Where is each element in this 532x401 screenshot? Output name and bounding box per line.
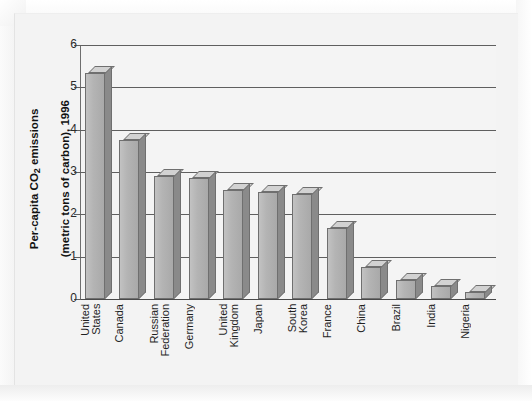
- y-tick-label: 4: [51, 122, 77, 136]
- y-tick-label: 2: [51, 206, 77, 220]
- bar-side-face: [209, 171, 216, 299]
- bar[interactable]: [223, 183, 250, 299]
- x-tick-label: Russian Federation: [149, 304, 177, 357]
- chart-panel: Per-capita CO2 emissions (metric tons of…: [14, 13, 518, 385]
- y-tick-label: 5: [51, 79, 77, 93]
- y-axis-title-line1: Per-capita CO2 emissions: [28, 109, 40, 250]
- y-tick-label: 1: [51, 249, 77, 263]
- x-tick-label: Canada: [114, 304, 142, 343]
- bar[interactable]: [327, 221, 354, 299]
- bar-front-face: [292, 194, 312, 299]
- x-tick-label: South Korea: [287, 304, 315, 333]
- bar[interactable]: [258, 185, 285, 299]
- bar-front-face: [465, 292, 485, 299]
- bar-side-face: [347, 221, 354, 299]
- bar[interactable]: [292, 187, 319, 299]
- bar[interactable]: [431, 279, 458, 299]
- bar[interactable]: [119, 133, 146, 299]
- bar-side-face: [243, 183, 250, 299]
- x-tick-label: India: [426, 304, 454, 328]
- frame-bevel-top: [0, 0, 532, 14]
- x-axis-tick-labels: United StatesCanadaRussian FederationGer…: [80, 304, 495, 384]
- bar-front-face: [431, 286, 451, 299]
- bar-front-face: [258, 192, 278, 299]
- y-tick-label: 6: [51, 37, 77, 51]
- bar-side-face: [278, 185, 285, 299]
- frame-bevel-right: [516, 0, 532, 401]
- figure-frame: Per-capita CO2 emissions (metric tons of…: [0, 0, 532, 401]
- bar-front-face: [327, 228, 347, 299]
- y-tick-label: 3: [51, 164, 77, 178]
- plot-area: 0123456: [80, 45, 496, 299]
- bar-front-face: [154, 176, 174, 299]
- bar-side-face: [381, 260, 388, 299]
- frame-bevel-left: [0, 0, 14, 401]
- bar[interactable]: [189, 171, 216, 299]
- bar-front-face: [223, 190, 243, 299]
- x-tick-label: Brazil: [391, 304, 419, 332]
- frame-bevel-bottom: [0, 385, 532, 401]
- bar-front-face: [85, 73, 105, 299]
- bar[interactable]: [154, 169, 181, 299]
- x-tick-label: Germany: [184, 304, 212, 349]
- y-axis-tick-labels: 0123456: [51, 45, 77, 299]
- bar-front-face: [361, 267, 381, 299]
- bar[interactable]: [361, 260, 388, 299]
- x-tick-label: Japan: [253, 304, 281, 334]
- x-tick-label: Nigeria: [460, 304, 488, 339]
- gridline: [81, 299, 496, 300]
- x-tick-label: France: [322, 304, 350, 338]
- bar-side-face: [174, 169, 181, 299]
- bar-front-face: [396, 280, 416, 299]
- x-tick-label: China: [356, 304, 384, 333]
- bar[interactable]: [85, 66, 112, 299]
- bar-front-face: [189, 178, 209, 299]
- bar-side-face: [105, 66, 112, 299]
- y-tick-label: 0: [51, 291, 77, 305]
- bar[interactable]: [465, 285, 492, 299]
- bar[interactable]: [396, 273, 423, 299]
- x-tick-label: United States: [80, 304, 108, 336]
- bar-front-face: [119, 140, 139, 299]
- bar-side-face: [312, 187, 319, 299]
- bar-side-face: [139, 133, 146, 299]
- bar-series: [81, 45, 496, 299]
- x-tick-label: United Kingdom: [218, 304, 246, 347]
